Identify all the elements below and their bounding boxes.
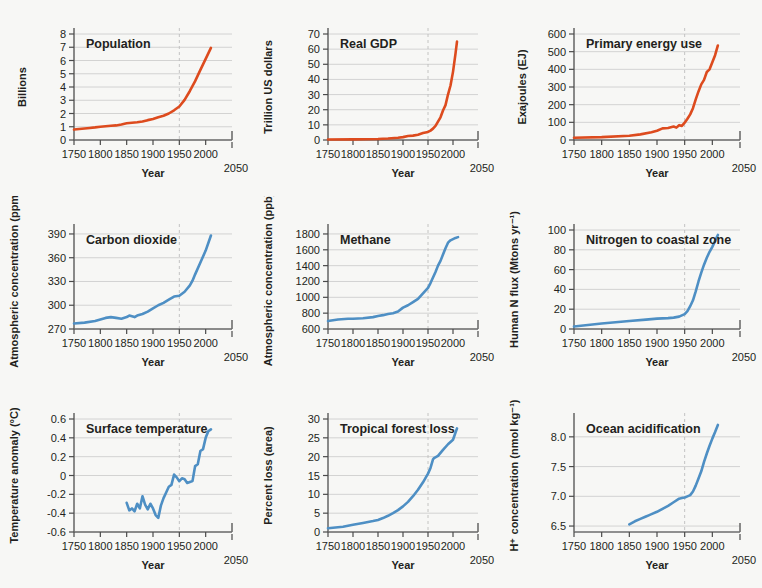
- panel-title: Primary energy use: [586, 37, 702, 51]
- y-tick-label: 0: [560, 134, 566, 146]
- y-tick-label: 0: [60, 470, 66, 482]
- y-tick-label: 60: [554, 264, 566, 276]
- chart-panel-real-gdp: 0102030405060701750180018501900195020002…: [254, 0, 500, 196]
- y-tick-label: 10: [308, 488, 320, 500]
- y-tick-label: 20: [308, 451, 320, 463]
- x-tick-label: 1950: [167, 337, 191, 349]
- x-tick-label: 1900: [141, 337, 165, 349]
- y-tick-label: 30: [308, 89, 320, 101]
- y-tick-label: 0.4: [51, 432, 66, 444]
- x-tick-label: 1750: [316, 148, 340, 160]
- x-tick-label-2050: 2050: [470, 162, 494, 174]
- y-tick-label: 0: [314, 134, 320, 146]
- x-tick-label: 1850: [114, 337, 138, 349]
- x-axis-title: Year: [645, 356, 669, 368]
- y-tick-label: 0: [60, 134, 66, 146]
- y-tick-label: 1600: [296, 244, 320, 256]
- data-series-line: [574, 235, 718, 327]
- y-tick-label: 1200: [296, 275, 320, 287]
- x-tick-label: 1950: [167, 540, 191, 552]
- y-tick-label: 20: [308, 104, 320, 116]
- x-tick-label: 1750: [62, 148, 86, 160]
- y-tick-label: 2: [60, 108, 66, 120]
- y-tick-label: 7.0: [551, 490, 566, 502]
- chart-svg-primary-energy-use: 0100200300400500600175018001850190019502…: [500, 0, 762, 196]
- x-tick-label: 1950: [416, 148, 440, 160]
- y-tick-label: 30: [308, 413, 320, 425]
- x-tick-label-2050: 2050: [732, 162, 756, 174]
- x-tick-label: 1800: [88, 540, 112, 552]
- y-axis-title: Billions: [16, 67, 28, 107]
- x-axis-title: Year: [391, 559, 415, 571]
- x-tick-label-2050: 2050: [224, 351, 248, 363]
- chart-panel-nitrogen-coastal-zone: 0204060801001750180018501900195020002050…: [500, 196, 762, 385]
- y-tick-label: 100: [548, 116, 566, 128]
- y-tick-label: 70: [308, 28, 320, 40]
- x-tick-label: 1900: [141, 148, 165, 160]
- y-tick-label: 200: [548, 99, 566, 111]
- chart-panel-ocean-acidification: 6.57.07.58.01750180018501900195020002050…: [500, 385, 762, 588]
- x-tick-label: 1900: [645, 540, 669, 552]
- x-tick-label: 1850: [366, 148, 390, 160]
- x-tick-label: 1800: [589, 148, 613, 160]
- y-tick-label: 7: [60, 41, 66, 53]
- chart-svg-nitrogen-to-coastal-zone: 0204060801001750180018501900195020002050…: [500, 196, 762, 385]
- y-tick-label: 330: [48, 275, 66, 287]
- y-tick-label: 4: [60, 81, 66, 93]
- chart-panel-primary-energy-use: 0100200300400500600175018001850190019502…: [500, 0, 762, 196]
- y-tick-label: 40: [554, 283, 566, 295]
- y-tick-label: 50: [308, 58, 320, 70]
- y-tick-label: 0: [560, 323, 566, 335]
- data-series-line: [74, 236, 211, 324]
- y-tick-label: 6: [60, 55, 66, 67]
- y-tick-label: 0.2: [51, 451, 66, 463]
- x-tick-label: 1800: [589, 337, 613, 349]
- y-tick-label: 100: [548, 224, 566, 236]
- x-tick-label: 2000: [700, 540, 724, 552]
- y-tick-label: 40: [308, 73, 320, 85]
- x-tick-label: 2000: [441, 337, 465, 349]
- y-tick-label: 600: [302, 323, 320, 335]
- chart-panel-surface-temperature: -0.6-0.4-0.200.20.40.6175018001850190019…: [0, 385, 254, 588]
- x-axis-title: Year: [645, 559, 669, 571]
- x-tick-label: 1750: [62, 337, 86, 349]
- x-tick-label: 1800: [341, 337, 365, 349]
- x-tick-label: 1800: [341, 540, 365, 552]
- y-tick-label: 8: [60, 28, 66, 40]
- x-tick-label: 1900: [391, 540, 415, 552]
- y-tick-label: 600: [548, 28, 566, 40]
- x-tick-label: 1950: [672, 337, 696, 349]
- x-axis-title: Year: [391, 356, 415, 368]
- chart-svg-ocean-acidification: 6.57.07.58.01750180018501900195020002050…: [500, 385, 762, 588]
- y-tick-label: 0: [314, 526, 320, 538]
- x-tick-label: 1850: [366, 337, 390, 349]
- panel-title: Population: [86, 37, 151, 51]
- y-tick-label: 5: [314, 507, 320, 519]
- y-tick-label: -0.6: [47, 526, 66, 538]
- data-series-line: [574, 45, 718, 137]
- y-axis-title: Atmospheric concentration (ppb): [262, 196, 274, 366]
- y-tick-label: 0.6: [51, 413, 66, 425]
- y-tick-label: 3: [60, 94, 66, 106]
- x-tick-label: 1850: [366, 540, 390, 552]
- chart-svg-methane: 6008001000120014001600180017501800185019…: [254, 196, 500, 385]
- y-axis-title: Temperature anomaly (°C): [8, 407, 20, 544]
- x-tick-label: 1950: [672, 540, 696, 552]
- y-tick-label: 20: [554, 303, 566, 315]
- panel-title: Methane: [340, 233, 391, 247]
- x-tick-label: 1850: [617, 337, 641, 349]
- panel-title: Real GDP: [340, 37, 397, 51]
- panel-title: Surface temperature: [86, 422, 208, 436]
- y-tick-label: 390: [48, 228, 66, 240]
- y-tick-label: 360: [48, 252, 66, 264]
- y-tick-label: 1: [60, 121, 66, 133]
- y-tick-label: 25: [308, 432, 320, 444]
- y-axis-title: Exajoules (EJ): [516, 49, 528, 125]
- y-tick-label: 15: [308, 470, 320, 482]
- x-tick-label: 1950: [416, 540, 440, 552]
- x-tick-label: 1800: [88, 148, 112, 160]
- y-tick-label: 5: [60, 68, 66, 80]
- panel-title: Tropical forest loss: [340, 422, 455, 436]
- chart-svg-real-gdp: 0102030405060701750180018501900195020002…: [254, 0, 500, 196]
- x-tick-label: 1750: [562, 148, 586, 160]
